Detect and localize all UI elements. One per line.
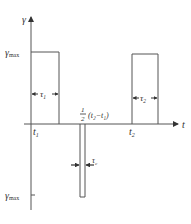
tau2-label: τ2 (140, 93, 146, 104)
tau1-label: τ1 (40, 89, 46, 100)
pulse-2 (132, 54, 158, 124)
pulse-1 (31, 52, 59, 124)
svg-text:2: 2 (81, 115, 85, 123)
t1-label: t1 (33, 126, 39, 138)
gamma-max-label: γmax (5, 47, 19, 58)
midpoint-label: 1 2 (t₂−t₁) (80, 106, 109, 123)
y-axis-label: γ (22, 14, 27, 25)
t2-label: t2 (129, 126, 135, 138)
tauc-label: τc (92, 156, 98, 166)
negative-pulse (80, 124, 85, 197)
gamma-min-label: γmax (5, 190, 19, 201)
t-axis-label: t (182, 119, 185, 130)
svg-text:1: 1 (81, 106, 85, 114)
svg-text:(t₂−t₁): (t₂−t₁) (88, 111, 109, 120)
pulse-sequence-diagram: γ t γmax γmax t1 t2 τ1 τ2 τc 1 2 (t₂−t₁) (0, 0, 191, 224)
